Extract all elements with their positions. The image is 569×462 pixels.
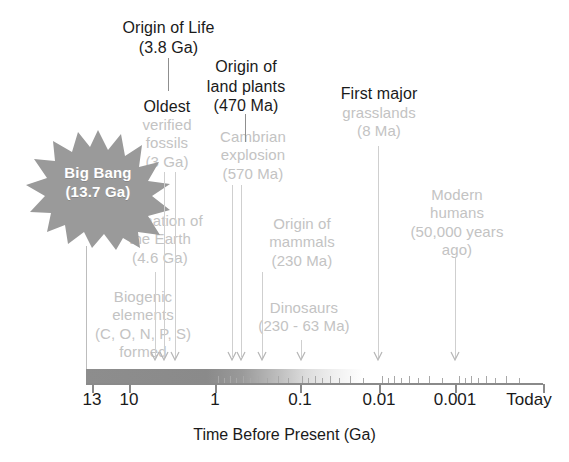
minor-tick (382, 376, 383, 383)
label-origin-of-life: Origin of Life (3.8 Ga) (96, 18, 241, 57)
label-origin-of-land-plants: Origin of land plants (470 Ma) (190, 57, 302, 116)
minor-tick (278, 376, 279, 383)
axis-tick-label: 1 (185, 390, 245, 410)
minor-tick (236, 378, 237, 383)
minor-tick (471, 376, 472, 383)
minor-tick (478, 378, 479, 383)
minor-tick (465, 378, 466, 383)
label-first-major-grasslands-body: grasslands (8 Ma) (325, 104, 433, 141)
minor-tick (218, 376, 219, 383)
minor-tick (322, 378, 323, 383)
label-biogenic-elements: Biogenic elements (C, O, N, P, S) formed (88, 288, 198, 361)
minor-tick (288, 378, 289, 383)
time-axis-line (86, 383, 543, 385)
label-oldest-fossils-head: Oldest (131, 97, 203, 117)
minor-tick (258, 376, 259, 383)
axis-tick-label: 0.01 (349, 390, 409, 410)
minor-tick (409, 376, 410, 383)
minor-tick (302, 376, 303, 383)
minor-tick (243, 376, 244, 383)
leader-line-big-bang (86, 246, 87, 370)
leader-line-formation-of-earth (155, 272, 156, 358)
minor-tick (418, 378, 419, 383)
minor-tick (519, 378, 520, 383)
minor-tick (339, 378, 340, 383)
minor-tick (224, 378, 225, 383)
minor-tick (308, 378, 309, 383)
minor-tick (230, 376, 231, 383)
minor-tick (486, 376, 487, 383)
leader-line-oldest-fossils-a (164, 172, 165, 358)
minor-tick (394, 376, 395, 383)
minor-tick (330, 376, 331, 383)
label-modern-humans: Modern humans (50,000 years ago) (396, 186, 518, 259)
minor-tick (363, 378, 364, 383)
leader-line-cambrian-explosion (232, 185, 233, 357)
label-dinosaurs: Dinosaurs (230 - 63 Ma) (236, 299, 372, 336)
label-origin-of-mammals: Origin of mammals (230 Ma) (252, 215, 352, 270)
axis-tick-label: Today (495, 390, 563, 410)
axis-tick-label: 0.1 (270, 390, 330, 410)
leader-line-land-plants-lower (241, 185, 242, 357)
minor-tick (495, 378, 496, 383)
axis-title: Time Before Present (Ga) (0, 426, 569, 444)
leader-line-grasslands (378, 146, 379, 358)
minor-tick (315, 376, 316, 383)
minor-tick (429, 376, 430, 383)
big-bang-label: Big Bang (13.7 Ga) (24, 164, 172, 202)
leader-line-origin-of-land-plants (245, 114, 246, 142)
axis-tick-label: 10 (99, 390, 159, 410)
minor-tick (350, 376, 351, 383)
minor-tick (459, 376, 460, 383)
minor-tick (250, 378, 251, 383)
leader-line-dinosaurs (301, 340, 302, 358)
leader-line-oldest-fossils-b (175, 172, 176, 358)
minor-tick (267, 378, 268, 383)
minor-tick (388, 378, 389, 383)
label-first-major-grasslands-head: First major (325, 84, 433, 104)
minor-tick (506, 376, 507, 383)
axis-tick-label: 0.001 (425, 390, 485, 410)
minor-tick (442, 378, 443, 383)
label-cambrian-explosion: Cambrian explosion (570 Ma) (200, 128, 306, 183)
minor-tick (401, 378, 402, 383)
leader-line-origin-of-life (168, 58, 169, 91)
leader-line-modern-humans (455, 258, 456, 358)
big-bang-starburst: Big Bang (13.7 Ga) (24, 128, 172, 250)
leader-line-origin-of-mammals (262, 272, 263, 358)
timeline-figure: Origin of Life (3.8 Ga) Origin of land p… (0, 0, 569, 462)
